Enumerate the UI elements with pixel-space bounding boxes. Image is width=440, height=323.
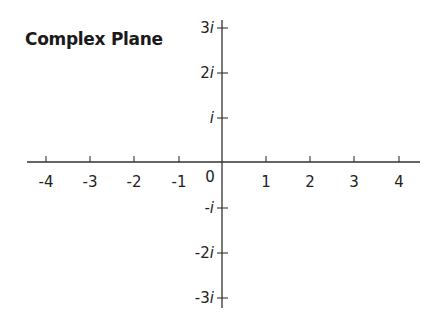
x-tick-labels: -4 -3 -2 -1 1 2 3 4 0 xyxy=(39,168,404,191)
x-label: -3 xyxy=(83,173,98,191)
x-label: -1 xyxy=(172,173,187,191)
y-tick-labels: 3i 2i i -i -2i -3i xyxy=(195,19,215,307)
x-label: -4 xyxy=(39,173,54,191)
y-label: i xyxy=(210,109,215,127)
x-label: 1 xyxy=(261,173,271,191)
y-label: -i xyxy=(204,199,214,217)
x-label: 4 xyxy=(394,173,404,191)
x-label: 2 xyxy=(305,173,315,191)
y-label: -3i xyxy=(195,289,215,307)
origin-label: 0 xyxy=(205,168,215,186)
y-label: 3i xyxy=(200,19,215,37)
complex-plane-axes: -4 -3 -2 -1 1 2 3 4 0 3i 2i i -i -2i -3i xyxy=(0,0,440,323)
x-label: 3 xyxy=(349,173,359,191)
y-label: -2i xyxy=(195,244,215,262)
y-label: 2i xyxy=(200,64,215,82)
x-label: -2 xyxy=(127,173,142,191)
